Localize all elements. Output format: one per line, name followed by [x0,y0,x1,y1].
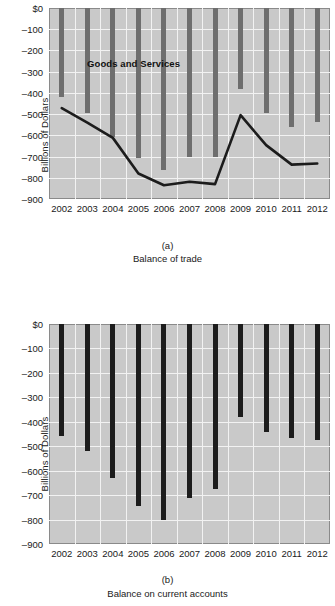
gridline-horizontal [49,520,330,521]
chart-panel-a: Billions of Dollars $0–100–200–300–400–5… [0,0,335,270]
chart-panel-b: Billions of Dollars $0–100–200–300–400–5… [0,302,335,606]
y-tick-label: –100 [22,343,43,354]
plot-area-b [49,324,330,544]
y-tick-label: –300 [22,392,43,403]
x-tick-label: 2008 [204,203,225,214]
gridline-vertical [253,324,254,544]
gridline-vertical [126,324,127,544]
bar [136,324,141,506]
axis-right-b [329,324,330,544]
x-tick-label: 2003 [77,203,98,214]
figure-page: Billions of Dollars $0–100–200–300–400–5… [0,0,335,606]
y-tick-label: –900 [22,539,43,550]
panel-title-a: Balance of trade [0,253,335,264]
axis-left-b [49,324,50,544]
y-tick-label: –600 [22,465,43,476]
gridline-vertical [202,324,203,544]
y-tick-label: –700 [22,151,43,162]
x-tick-label: 2010 [256,548,277,559]
x-tick-label: 2007 [179,203,200,214]
y-tick-label: $0 [32,319,43,330]
x-tick-label: 2007 [179,548,200,559]
bar [187,324,192,498]
gridline-vertical [304,324,305,544]
y-tick-label: –200 [22,45,43,56]
gridline-vertical [279,324,280,544]
line-series-goods [49,8,330,199]
y-tick-label: –800 [22,172,43,183]
bar [110,324,115,478]
y-tick-label: –500 [22,109,43,120]
x-tick-label: 2002 [51,203,72,214]
gridline-vertical [177,324,178,544]
gridline-vertical [151,324,152,544]
gridline-vertical [100,324,101,544]
gridline-vertical [75,324,76,544]
bar [264,324,269,432]
x-tick-label: 2006 [153,203,174,214]
y-tick-label: –100 [22,24,43,35]
y-tick-label: –400 [22,87,43,98]
x-tick-label: 2005 [128,203,149,214]
bar [161,324,166,520]
panel-title-b: Balance on current accounts [0,588,335,599]
y-tick-label: –200 [22,367,43,378]
x-tick-label: 2003 [77,548,98,559]
y-tick-label: –400 [22,416,43,427]
x-tick-label: 2011 [281,203,301,214]
x-tick-label: 2012 [307,203,328,214]
y-tick-label: $0 [32,3,43,14]
x-tick-label: 2002 [51,548,72,559]
x-tick-label: 2008 [204,548,225,559]
y-tick-label: –600 [22,130,43,141]
plot-area-a: Goods and ServicesGoods [49,8,330,199]
panel-label-a: (a) [0,240,335,251]
annotation-goods: Goods [62,197,93,199]
x-tick-label: 2012 [307,548,328,559]
x-tick-label: 2005 [128,548,149,559]
x-tick-label: 2009 [230,203,251,214]
bar [315,324,320,440]
x-tick-label: 2006 [153,548,174,559]
panel-label-b: (b) [0,574,335,585]
bar [85,324,90,451]
x-tick-label: 2010 [256,203,277,214]
y-tick-label: –500 [22,441,43,452]
annotation-goods-and-services: Goods and Services [87,58,180,69]
x-tick-label: 2009 [230,548,251,559]
y-tick-label: –800 [22,514,43,525]
bar [238,324,243,417]
bar [289,324,294,438]
y-tick-label: –300 [22,66,43,77]
x-tick-label: 2004 [102,203,123,214]
bar [59,324,64,436]
gridline-vertical [228,324,229,544]
y-tick-label: –700 [22,490,43,501]
bar [213,324,218,489]
x-tick-label: 2004 [102,548,123,559]
y-tick-label: –900 [22,194,43,205]
x-tick-label: 2011 [281,548,301,559]
